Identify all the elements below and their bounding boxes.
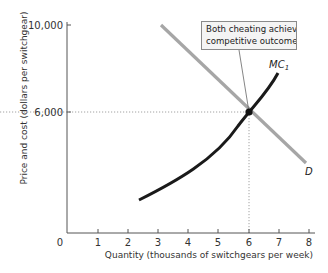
mc-label: MC1 (269, 59, 289, 72)
x-tick-label-0: 0 (57, 237, 63, 248)
x-tick-label-3: 3 (155, 237, 161, 248)
x-tick-label-8: 8 (306, 237, 312, 248)
x-tick-label-7: 7 (276, 237, 282, 248)
equilibrium-point (245, 108, 252, 115)
demand-label: D (305, 166, 313, 177)
callout-line-2: competitive outcome (206, 36, 292, 48)
y-tick-label-6000: 6,000 (34, 107, 63, 118)
annotation-callout: Both cheating achieves competitive outco… (201, 21, 297, 50)
x-ticks (98, 229, 309, 233)
y-tick-label-10000: 10,000 (28, 20, 63, 31)
x-tick-label-2: 2 (125, 237, 131, 248)
x-tick-label-1: 1 (95, 237, 101, 248)
x-tick-label-4: 4 (185, 237, 191, 248)
x-tick-label-5: 5 (215, 237, 221, 248)
y-axis-title: Price and cost (dollars per switchgear) (19, 11, 29, 184)
x-tick-label-6: 6 (246, 237, 252, 248)
x-axis-title: Quantity (thousands of switchgears per w… (105, 250, 313, 260)
marginal-cost-curve (139, 73, 278, 200)
callout-line-1: Both cheating achieves (206, 24, 292, 36)
